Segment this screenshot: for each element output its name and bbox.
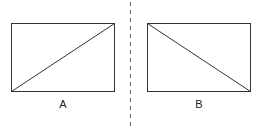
- diagram-canvas: A B: [0, 0, 264, 139]
- diagonal-a: [12, 24, 115, 92]
- label-a: A: [59, 99, 66, 110]
- figure-b: [148, 24, 251, 92]
- label-b: B: [195, 99, 202, 110]
- diagonal-b: [148, 24, 251, 92]
- figure-a: [12, 24, 115, 92]
- diagram-svg: [0, 0, 264, 139]
